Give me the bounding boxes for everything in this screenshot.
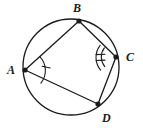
chord-cd [98,57,116,104]
geometry-figure: A B C D [0,0,143,128]
circle-diagram-canvas [0,0,143,128]
vertex-label-b: B [73,2,81,14]
vertex-dot-c [113,54,118,59]
vertex-label-c: C [126,51,134,63]
angle-arc-c-outer [96,45,101,70]
chord-ab [25,21,79,70]
vertex-label-a: A [7,64,15,76]
vertex-label-d: D [102,112,111,124]
vertex-dot-d [95,101,100,106]
angle-arc-c-inner [101,48,104,67]
angle-mark-c [96,45,105,70]
angle-tick-a [42,66,50,68]
vertex-dot-a [22,67,27,72]
vertex-dot-b [76,18,81,23]
